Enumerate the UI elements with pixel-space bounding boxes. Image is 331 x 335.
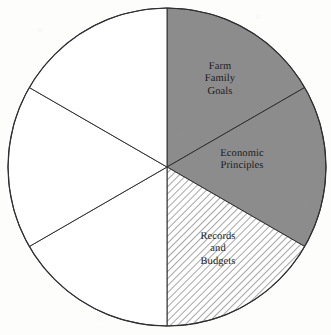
- pie-chart-canvas: Farm Family Goals Economic Principles Re…: [0, 0, 331, 335]
- pie-chart-svg: [0, 0, 331, 335]
- pie-chart-figure: Farm Family Goals Economic Principles Re…: [0, 0, 331, 335]
